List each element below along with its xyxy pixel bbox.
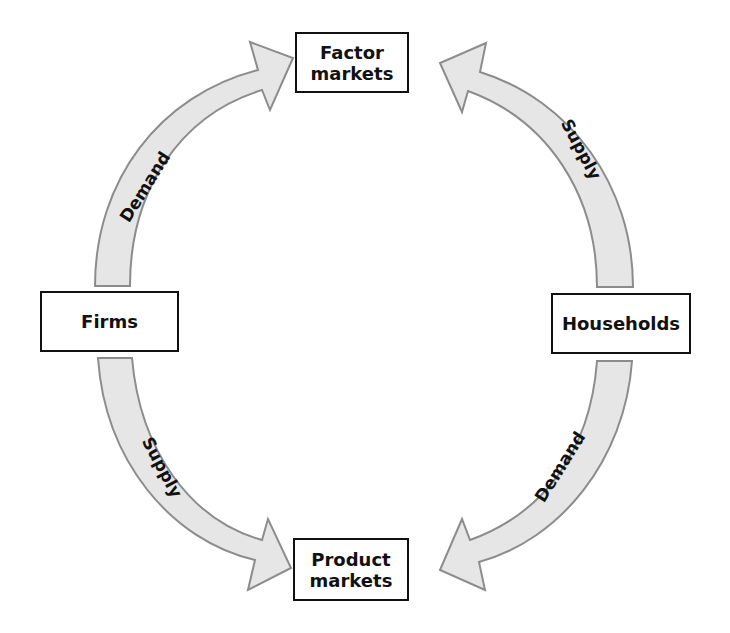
product-markets-label: Product markets bbox=[310, 549, 393, 591]
arrow-firms-to-product-markets bbox=[98, 358, 291, 590]
arrow-households-to-product-markets bbox=[440, 361, 632, 590]
firms-box: Firms bbox=[40, 291, 179, 352]
firms-label: Firms bbox=[81, 311, 138, 332]
factor-markets-label: Factor markets bbox=[311, 42, 394, 84]
arrow-households-to-factor-markets bbox=[440, 43, 633, 287]
factor-markets-box: Factor markets bbox=[295, 32, 409, 93]
arrow-firms-to-factor-markets bbox=[95, 42, 293, 286]
households-box: Households bbox=[551, 293, 691, 354]
households-label: Households bbox=[562, 313, 680, 334]
product-markets-box: Product markets bbox=[293, 538, 409, 601]
